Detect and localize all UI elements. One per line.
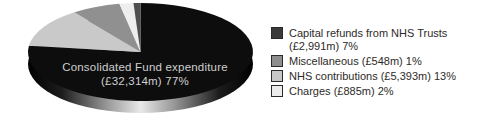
legend-label-charges: Charges (£885m) 2% <box>289 85 394 98</box>
legend-swatch-nhs-contributions <box>271 70 283 82</box>
legend-swatch-capital-refunds <box>271 27 283 39</box>
legend-item-charges: Charges (£885m) 2% <box>271 85 486 98</box>
legend-item-nhs-contributions: NHS contributions (£5,393m) 13% <box>271 70 486 83</box>
legend-label-nhs-contributions: NHS contributions (£5,393m) 13% <box>289 70 456 83</box>
legend-swatch-miscellaneous <box>271 55 283 67</box>
legend-item-miscellaneous: Miscellaneous (£548m) 1% <box>271 55 486 68</box>
legend-label-line1: Capital refunds from NHS Trusts <box>289 27 447 39</box>
legend-label-capital-refunds: Capital refunds from NHS Trusts (£2,991m… <box>289 27 447 53</box>
pie-label-line1: Consolidated Fund expenditure <box>62 61 228 73</box>
legend-label-line2: (£2,991m) 7% <box>289 40 447 53</box>
legend-label-miscellaneous: Miscellaneous (£548m) 1% <box>289 55 422 68</box>
chart-canvas: Consolidated Fund expenditure (£32,314m)… <box>0 0 490 119</box>
pie-label-line2: (£32,314m) 77% <box>30 74 260 88</box>
legend-item-capital-refunds: Capital refunds from NHS Trusts (£2,991m… <box>271 27 486 53</box>
legend-swatch-charges <box>271 85 283 97</box>
pie-slice-label-consolidated-fund: Consolidated Fund expenditure (£32,314m)… <box>30 60 260 88</box>
legend: Capital refunds from NHS Trusts (£2,991m… <box>271 27 486 100</box>
